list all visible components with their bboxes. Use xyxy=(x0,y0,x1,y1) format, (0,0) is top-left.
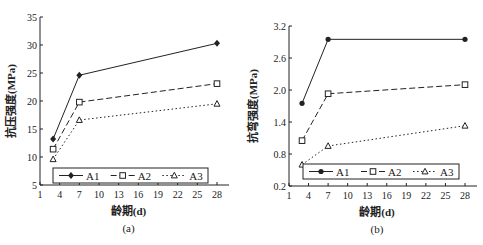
x-tick-label: 13 xyxy=(362,190,372,201)
legend-label: A2 xyxy=(138,170,151,182)
x-tick-label: 19 xyxy=(401,190,411,201)
square-marker xyxy=(462,82,468,88)
x-tick-label: 7 xyxy=(77,189,82,200)
square-marker xyxy=(370,169,376,175)
y-tick-label: 35 xyxy=(27,12,37,23)
square-marker xyxy=(299,138,305,144)
legend: A1A2A3 xyxy=(53,168,208,183)
circle-marker xyxy=(326,37,331,42)
x-tick-label: 22 xyxy=(173,189,183,200)
x-tick-label: 7 xyxy=(326,190,331,201)
legend-label: A1 xyxy=(336,166,349,178)
series-a2 xyxy=(50,81,219,152)
circle-marker xyxy=(318,169,323,174)
y-axis-label: 抗弯强度(MPa) xyxy=(246,69,260,143)
square-marker xyxy=(325,91,331,97)
series-a1 xyxy=(50,40,220,143)
y-tick-label: 10 xyxy=(27,152,37,163)
diamond-marker xyxy=(214,40,220,47)
chart-panel-b: 0.20.81.42.02.63.214710131619222528龄期(d)… xyxy=(241,0,483,245)
panel-label: (b) xyxy=(371,223,384,236)
triangle-marker xyxy=(462,123,468,129)
x-tick-label: 4 xyxy=(306,190,311,201)
triangle-marker xyxy=(50,156,56,162)
chart-panel-a: 510152025303514710131619222528龄期(d)抗压强度(… xyxy=(0,0,241,245)
x-tick-label: 28 xyxy=(212,189,222,200)
legend: A1A2A3 xyxy=(303,164,459,179)
x-tick-label: 1 xyxy=(287,190,292,201)
y-tick-label: 5 xyxy=(32,180,37,191)
x-tick-label: 25 xyxy=(440,190,450,201)
circle-marker xyxy=(462,37,467,42)
panel-label: (a) xyxy=(122,222,135,235)
diamond-marker xyxy=(76,72,82,79)
x-tick-label: 28 xyxy=(460,190,470,201)
x-tick-label: 13 xyxy=(114,189,124,200)
y-tick-label: 0.2 xyxy=(274,181,287,192)
y-tick-label: 2.6 xyxy=(274,53,287,64)
compressive-strength-chart: 510152025303514710131619222528龄期(d)抗压强度(… xyxy=(0,0,241,245)
flexural-strength-chart: 0.20.81.42.02.63.214710131619222528龄期(d)… xyxy=(241,0,483,245)
y-tick-label: 0.8 xyxy=(274,149,287,160)
x-tick-label: 25 xyxy=(192,189,202,200)
triangle-marker xyxy=(325,143,331,149)
x-axis-label: 龄期(d) xyxy=(111,204,147,218)
x-tick-label: 19 xyxy=(153,189,163,200)
y-axis-label: 抗压强度(MPa) xyxy=(4,64,18,138)
x-tick-label: 10 xyxy=(343,190,353,201)
x-tick-label: 16 xyxy=(382,190,392,201)
legend-label: A3 xyxy=(440,166,454,178)
y-tick-label: 15 xyxy=(27,124,37,135)
x-tick-label: 4 xyxy=(57,189,62,200)
x-tick-label: 10 xyxy=(94,189,104,200)
series-a1 xyxy=(299,37,467,106)
x-tick-label: 22 xyxy=(421,190,431,201)
x-axis-label: 龄期(d) xyxy=(359,205,395,219)
legend-label: A3 xyxy=(189,170,203,182)
x-tick-label: 16 xyxy=(133,189,143,200)
legend-label: A2 xyxy=(388,166,401,178)
diamond-marker xyxy=(50,136,56,143)
y-tick-label: 30 xyxy=(27,40,37,51)
square-marker xyxy=(120,173,126,179)
triangle-marker xyxy=(214,101,220,107)
y-tick-label: 2.0 xyxy=(274,85,287,96)
y-tick-label: 25 xyxy=(27,68,37,79)
series-a2 xyxy=(299,82,468,144)
y-tick-label: 20 xyxy=(27,96,37,107)
series-a3 xyxy=(299,123,468,168)
x-tick-label: 1 xyxy=(38,189,43,200)
square-marker xyxy=(214,81,220,87)
square-marker xyxy=(77,99,83,105)
y-tick-label: 1.4 xyxy=(274,117,287,128)
square-marker xyxy=(50,146,56,152)
circle-marker xyxy=(299,101,304,106)
legend-label: A1 xyxy=(86,170,99,182)
y-tick-label: 3.2 xyxy=(274,21,287,32)
